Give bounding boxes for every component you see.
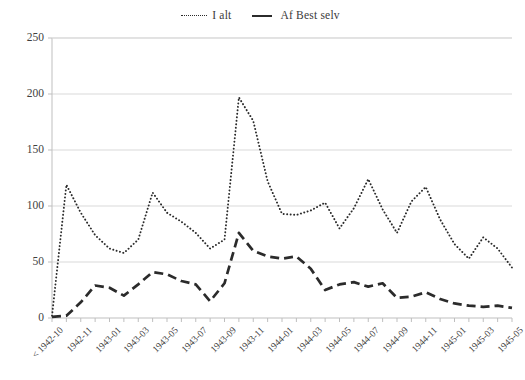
series-line-af-best-selv [52,233,512,317]
series-line-i-alt [52,97,512,315]
axis-lines [52,38,512,318]
y-axis-ticks [48,38,52,318]
gridlines [52,38,512,262]
y-tick-label: 200 [8,88,44,100]
y-tick-label: 250 [8,32,44,44]
y-tick-label: 0 [8,312,44,324]
y-tick-label: 50 [8,256,44,268]
y-tick-label: 150 [8,144,44,156]
y-tick-label: 100 [8,200,44,212]
x-axis-ticks [52,318,512,322]
data-series-layer [52,97,512,317]
